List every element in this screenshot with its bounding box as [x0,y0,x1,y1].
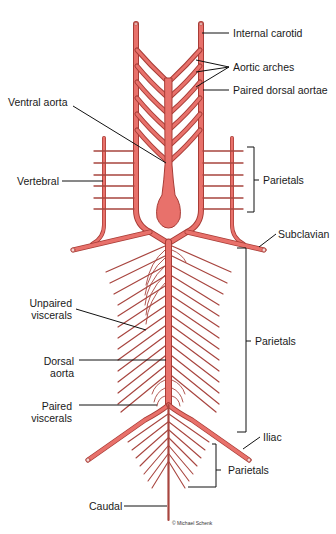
aortic-arch-diagram [0,0,336,534]
leader-iliac [243,437,260,449]
label-dorsal-aorta: Dorsal aorta [36,355,74,379]
bracket-parietals-middle [237,248,251,432]
label-iliac: Iliac [263,431,282,443]
label-aortic-arches: Aortic arches [233,61,294,73]
label-dorsal-aorta-line2: aorta [36,367,74,379]
label-parietals-middle: Parietals [255,335,296,347]
leader-unpaired-viscerals [76,309,146,330]
label-unpaired-viscerals: Unpaired viscerals [26,297,72,321]
label-unpaired-viscerals-line2: viscerals [26,309,72,321]
label-paired-viscerals-line2: viscerals [26,412,72,424]
label-ventral-aorta: Ventral aorta [8,96,68,108]
vessel-system [71,23,266,520]
label-subclavian: Subclavian [278,228,329,240]
label-parietals-lower: Parietals [228,464,269,476]
label-vertebral: Vertebral [17,175,59,187]
copyright-notice: © Michael Schenk [172,520,212,526]
label-parietals-upper: Parietals [263,174,304,186]
label-caudal: Caudal [89,500,122,512]
bracket-parietals-upper [247,147,259,212]
leader-subclavian [259,234,276,247]
label-internal-carotid: Internal carotid [233,27,302,39]
label-paired-viscerals: Paired viscerals [26,400,72,424]
label-unpaired-viscerals-line1: Unpaired [26,297,72,309]
label-paired-dorsal-aortae: Paired dorsal aortae [233,84,328,96]
label-paired-viscerals-line1: Paired [26,400,72,412]
label-dorsal-aorta-line1: Dorsal [36,355,74,367]
